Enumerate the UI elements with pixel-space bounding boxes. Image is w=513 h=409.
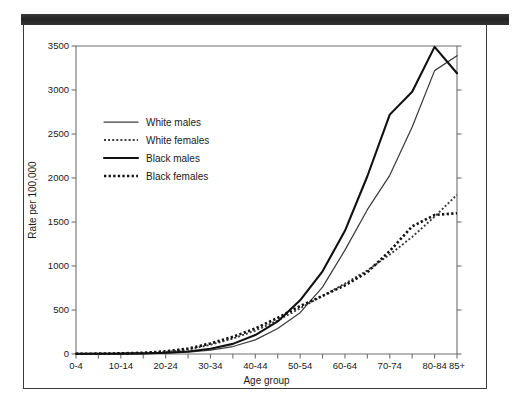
- series-line-white-females: [76, 195, 457, 354]
- y-tick-label: 2000: [48, 172, 69, 183]
- x-tick-label: 80-84: [422, 360, 446, 371]
- y-tick-label: 500: [53, 304, 69, 315]
- x-tick-label: 30-34: [198, 360, 222, 371]
- x-tick-label: 0-4: [69, 360, 83, 371]
- y-tick-label: 0: [64, 348, 69, 359]
- line-chart: 05001000150020002500300035000-410-1420-2…: [0, 0, 513, 409]
- y-tick-label: 3500: [48, 40, 69, 51]
- x-tick-label: 20-24: [153, 360, 177, 371]
- chart-series: [76, 47, 457, 354]
- chart-legend: White malesWhite femalesBlack malesBlack…: [104, 117, 209, 182]
- legend-label-black-males: Black males: [146, 153, 200, 164]
- y-tick-label: 2500: [48, 128, 69, 139]
- x-tick-label: 85+: [449, 360, 466, 371]
- legend-label-black-females: Black females: [146, 171, 208, 182]
- legend-label-white-females: White females: [146, 135, 209, 146]
- y-tick-label: 3000: [48, 84, 69, 95]
- x-tick-label: 50-54: [288, 360, 312, 371]
- chart-axes: 05001000150020002500300035000-410-1420-2…: [48, 40, 466, 371]
- series-line-black-males: [76, 47, 457, 354]
- figure-page: 05001000150020002500300035000-410-1420-2…: [0, 0, 513, 409]
- y-tick-label: 1000: [48, 260, 69, 271]
- series-line-white-males: [76, 56, 457, 354]
- x-tick-label: 40-44: [243, 360, 267, 371]
- y-axis-title: Rate per 100,000: [27, 161, 38, 239]
- y-tick-label: 1500: [48, 216, 69, 227]
- series-line-black-females: [76, 213, 457, 354]
- x-axis-title: Age group: [243, 375, 290, 386]
- x-tick-label: 70-74: [378, 360, 402, 371]
- x-tick-label: 60-64: [333, 360, 357, 371]
- x-tick-label: 10-14: [109, 360, 133, 371]
- legend-label-white-males: White males: [146, 117, 201, 128]
